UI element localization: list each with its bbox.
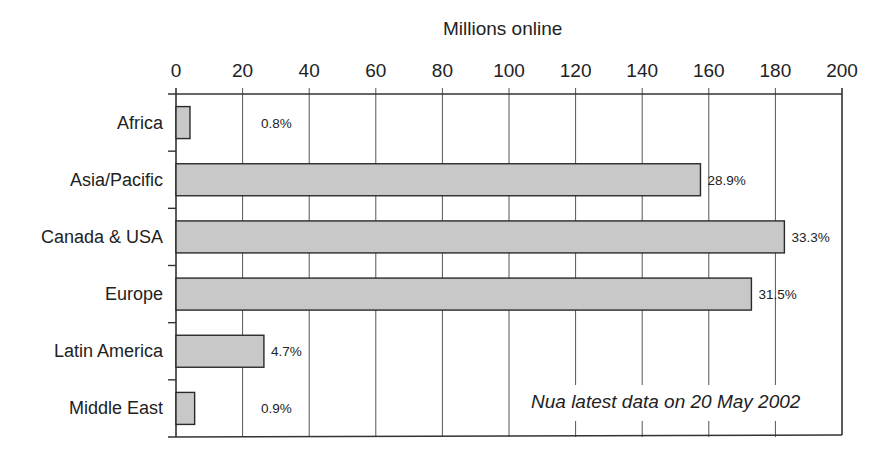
percent-label: 4.7% bbox=[271, 344, 302, 359]
bar bbox=[176, 278, 751, 310]
x-tick-label: 80 bbox=[432, 60, 453, 82]
x-tick-label: 40 bbox=[299, 60, 320, 82]
x-tick-label: 140 bbox=[626, 60, 658, 82]
category-label: Asia/Pacific bbox=[70, 169, 163, 190]
category-label: Canada & USA bbox=[41, 226, 163, 247]
percent-label: 0.8% bbox=[261, 115, 292, 130]
percent-label: 33.3% bbox=[791, 229, 829, 244]
x-tick-label: 160 bbox=[693, 60, 725, 82]
x-tick-label: 120 bbox=[560, 60, 592, 82]
bar bbox=[176, 164, 700, 196]
bar bbox=[176, 392, 195, 424]
bar-chart: Millions online 0 20 40 60 80 100 120 14… bbox=[0, 0, 891, 456]
percent-label: 28.9% bbox=[707, 172, 745, 187]
source-annotation: Nua latest data on 20 May 2002 bbox=[531, 391, 800, 413]
bottom-border bbox=[168, 435, 842, 437]
percent-label: 0.9% bbox=[261, 401, 292, 416]
category-label: Europe bbox=[105, 284, 163, 305]
category-label: Middle East bbox=[69, 398, 163, 419]
x-tick-label: 200 bbox=[826, 60, 858, 82]
x-tick-label: 60 bbox=[365, 60, 386, 82]
percent-label: 31.5% bbox=[758, 287, 796, 302]
x-tick-label: 100 bbox=[493, 60, 525, 82]
category-label: Latin America bbox=[54, 341, 163, 362]
bar bbox=[176, 107, 190, 139]
bar bbox=[176, 221, 784, 253]
x-tick-label: 180 bbox=[760, 60, 792, 82]
x-tick-label: 0 bbox=[171, 60, 182, 82]
x-tick-label: 20 bbox=[232, 60, 253, 82]
bar bbox=[176, 335, 264, 367]
x-axis-title: Millions online bbox=[443, 18, 562, 40]
category-label: Africa bbox=[117, 112, 163, 133]
